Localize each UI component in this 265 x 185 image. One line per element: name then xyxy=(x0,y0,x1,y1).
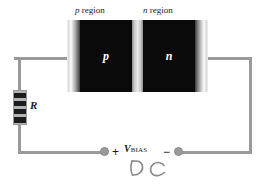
figure-canvas: p region n region p n R + − VBIAS xyxy=(0,0,265,185)
resistor-band xyxy=(14,93,26,98)
wire-top-left xyxy=(14,57,68,60)
wire-bottom-right xyxy=(180,151,252,154)
resistor-symbol xyxy=(13,90,27,125)
p-region-label: p xyxy=(80,50,132,62)
wire-left-lower xyxy=(18,123,21,154)
dc-letter-d-stem xyxy=(131,161,133,175)
p-region-caption-rest: region xyxy=(80,5,105,15)
resistor-band xyxy=(14,101,26,106)
p-type-semiconductor: p xyxy=(80,20,132,92)
n-region-caption: n region xyxy=(143,6,173,15)
plus-sign: + xyxy=(112,146,119,158)
cathode-metal-contact xyxy=(195,20,208,92)
bias-voltage-label: VBIAS xyxy=(124,144,147,154)
dc-handwritten-annotation xyxy=(128,158,170,180)
positive-terminal xyxy=(100,147,109,156)
voltage-symbol: V xyxy=(124,143,131,154)
resistor-label: R xyxy=(30,100,37,111)
n-region-label: n xyxy=(143,50,195,62)
wire-left-upper xyxy=(18,57,21,92)
minus-sign: − xyxy=(163,146,170,158)
voltage-subscript: BIAS xyxy=(131,146,148,154)
resistor-band xyxy=(14,117,26,123)
anode-metal-contact xyxy=(67,20,80,92)
depletion-region xyxy=(132,20,143,92)
negative-terminal xyxy=(174,147,183,156)
n-type-semiconductor: n xyxy=(143,20,195,92)
wire-right xyxy=(249,57,252,154)
n-region-caption-rest: region xyxy=(148,5,173,15)
wire-top-right xyxy=(207,57,252,60)
p-region-caption: p region xyxy=(75,6,105,15)
resistor-band xyxy=(14,109,26,114)
dc-letter-d-bowl xyxy=(132,161,143,175)
pn-junction-diode: p n xyxy=(67,20,208,92)
wire-bottom-left xyxy=(18,151,105,154)
dc-letter-c xyxy=(151,163,165,176)
